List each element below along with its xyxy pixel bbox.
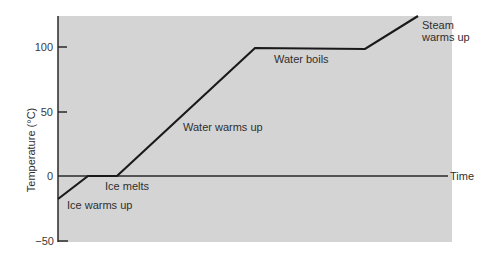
y-tick-label-100: 100 — [35, 41, 53, 53]
annotation-ice-melts: Ice melts — [105, 180, 150, 192]
annotation-steam-line2: warms up — [421, 31, 470, 43]
annotation-water-boils: Water boils — [274, 53, 329, 65]
y-tick-label-50: 50 — [41, 106, 53, 118]
y-tick-label-minus50: −50 — [35, 235, 54, 247]
annotation-ice-warms-up: Ice warms up — [67, 199, 132, 211]
heating-curve-chart: 100 50 0 −50 Temperature (°C) Time Ice w… — [0, 0, 499, 259]
y-tick-label-0: 0 — [47, 170, 53, 182]
annotation-water-warms-up: Water warms up — [183, 121, 263, 133]
x-axis-label: Time — [450, 170, 474, 182]
y-axis-label: Temperature (°C) — [25, 108, 37, 192]
annotation-steam-line1: Steam — [422, 19, 454, 31]
